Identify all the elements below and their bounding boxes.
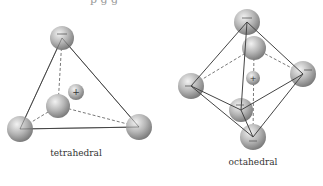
octahedral-label: octahedral bbox=[229, 157, 278, 167]
svg-text:+: + bbox=[72, 87, 80, 97]
tetrahedral-label: tetrahedral bbox=[50, 148, 102, 158]
svg-text:+: + bbox=[250, 74, 257, 83]
tetrahedral-structure: + bbox=[7, 26, 152, 142]
anion-sphere bbox=[46, 94, 70, 118]
octahedral-structure: + bbox=[178, 9, 316, 150]
